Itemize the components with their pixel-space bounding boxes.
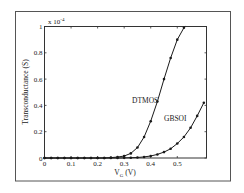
y-axis-label: Transconductance (S) <box>21 59 30 125</box>
data-point-marker <box>70 157 73 160</box>
data-point-marker <box>169 147 172 150</box>
y-tick-label: 1 <box>39 23 43 31</box>
dtmos-label: DTMOS <box>132 96 158 105</box>
data-point-marker <box>83 157 86 160</box>
data-point-marker <box>163 151 166 154</box>
data-point-marker <box>50 157 53 160</box>
x-axis-label: VG(V) <box>114 168 136 178</box>
data-point-marker <box>136 146 139 149</box>
y-tick-label: 0 <box>39 155 43 163</box>
data-point-marker <box>183 27 186 30</box>
series-line-dtmos <box>45 27 186 159</box>
data-point-marker <box>110 157 113 160</box>
y-tick-label: 0.2 <box>34 128 43 136</box>
series-lines <box>43 27 205 160</box>
transconductance-chart: 00.10.20.30.40.5 00.20.40.60.81 x 10-4 T… <box>0 0 244 193</box>
x-tick-label: 0.2 <box>93 160 102 168</box>
y-tick-labels: 00.20.40.60.81 <box>34 23 43 163</box>
x-tick-label: 0.4 <box>146 160 155 168</box>
series-line-gbsoi <box>45 103 204 158</box>
data-point-marker <box>176 142 179 145</box>
y-tick-label: 0.8 <box>34 49 43 57</box>
data-point-marker <box>183 136 186 139</box>
data-point-marker <box>130 156 133 159</box>
data-point-marker <box>143 156 146 159</box>
y-tick-label: 0.4 <box>34 102 43 110</box>
data-point-marker <box>116 157 119 160</box>
x-tick-label: 0.1 <box>67 160 76 168</box>
data-point-marker <box>176 38 179 41</box>
data-point-marker <box>43 157 46 160</box>
data-point-marker <box>149 155 152 158</box>
data-point-marker <box>123 157 126 160</box>
data-point-marker <box>169 57 172 60</box>
data-point-marker <box>63 157 66 160</box>
data-point-marker <box>143 136 146 139</box>
data-point-marker <box>196 115 199 118</box>
data-point-marker <box>96 157 99 160</box>
data-point-marker <box>90 157 93 160</box>
x-tick-label: 0 <box>43 160 47 168</box>
data-point-marker <box>163 78 166 81</box>
data-point-marker <box>203 101 206 104</box>
data-point-marker <box>130 152 133 155</box>
data-point-marker <box>136 156 139 159</box>
x-tick-label: 0.5 <box>173 160 182 168</box>
gbsoi-label: GBSOI <box>164 114 187 123</box>
data-point-marker <box>189 126 192 129</box>
data-point-marker <box>103 157 106 160</box>
x-tick-label: 0.3 <box>120 160 129 168</box>
data-point-marker <box>156 153 159 156</box>
data-point-marker <box>149 120 152 123</box>
y-multiplier: x 10-4 <box>48 17 65 26</box>
y-tick-label: 0.6 <box>34 76 43 84</box>
data-point-marker <box>76 157 79 160</box>
x-tick-labels: 00.10.20.30.40.5 <box>43 160 182 168</box>
data-point-marker <box>56 157 59 160</box>
